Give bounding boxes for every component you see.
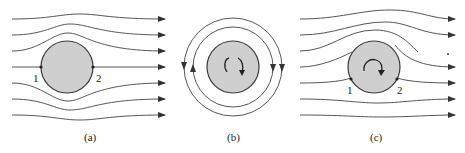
point-label-1-c: 1 (347, 84, 353, 96)
streamline (12, 83, 165, 101)
streamline (397, 78, 455, 83)
stagnation-point-1-c (349, 77, 352, 80)
streamline (300, 22, 455, 35)
streamline (300, 52, 352, 67)
arrow-down-icon (270, 64, 276, 72)
caption-b: (b) (227, 131, 240, 144)
point-label-1-a: 1 (33, 72, 39, 84)
streamline (300, 10, 455, 19)
cylinder-a (41, 41, 93, 93)
caption-a: (a) (84, 131, 97, 144)
streamline (300, 115, 455, 117)
streamline (12, 33, 165, 51)
stagnation-point-2-a (91, 65, 94, 68)
streamline (12, 14, 165, 19)
streamline (300, 99, 455, 103)
streamline (12, 115, 165, 120)
stagnation-point-1-a (39, 65, 42, 68)
streamline (395, 45, 455, 67)
streamline (300, 78, 351, 83)
flow-diagram-figure: 1 2 (a) (b) 1 2 (c) (0, 0, 465, 153)
point-label-2-a: 2 (96, 72, 102, 84)
arrow-down-icon (279, 64, 285, 72)
caption-c: (c) (370, 131, 383, 144)
arrow-up-icon (181, 62, 187, 70)
streamline (12, 99, 165, 110)
cylinder-b (207, 41, 259, 93)
point-label-2-c: 2 (397, 84, 403, 96)
streamline (12, 24, 165, 35)
cylinder-c (348, 41, 400, 93)
stagnation-point-2-c (395, 77, 398, 80)
arrow-up-icon (190, 64, 196, 72)
small-dot (447, 53, 449, 55)
